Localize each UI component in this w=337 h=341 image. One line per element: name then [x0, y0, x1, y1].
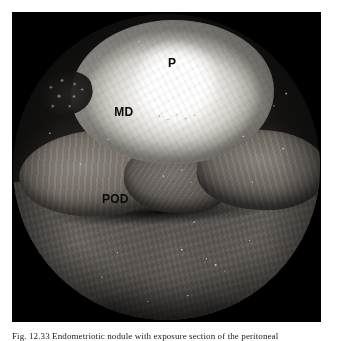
- annotation-label-pod: POD: [102, 193, 129, 205]
- figure-caption: Fig. 12.33 Endometriotic nodule with exp…: [12, 331, 325, 341]
- annotation-label-p: P: [168, 57, 176, 69]
- specular-blowout-core: [131, 39, 222, 130]
- photograph-scene: P MD POD: [12, 12, 321, 322]
- figure-page: P MD POD Fig. 12.33 Endometriotic nodule…: [0, 0, 337, 341]
- figure-image-frame: P MD POD: [12, 12, 321, 322]
- surface-vessel-flecks: [149, 109, 202, 128]
- figure-caption-text: Fig. 12.33 Endometriotic nodule with exp…: [12, 331, 325, 341]
- laparoscope-field-of-view: P MD POD: [13, 14, 320, 320]
- annotation-label-md: MD: [114, 106, 133, 118]
